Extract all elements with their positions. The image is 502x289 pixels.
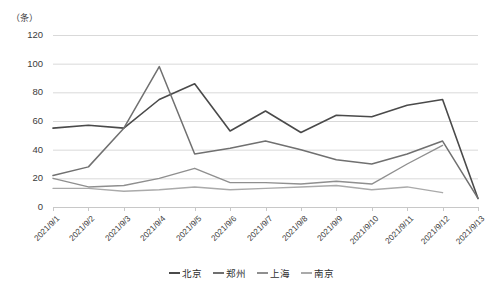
- legend-label: 南京: [314, 266, 334, 280]
- y-tick-label: 80: [13, 86, 43, 97]
- y-tick-label: 120: [13, 29, 43, 40]
- legend-line-icon: [257, 272, 268, 274]
- legend-item[interactable]: 北京: [169, 266, 202, 280]
- legend-line-icon: [213, 272, 224, 274]
- legend-line-icon: [169, 272, 180, 274]
- gridlines-group: [53, 36, 478, 208]
- legend-item[interactable]: 郑州: [213, 266, 246, 280]
- legend-item[interactable]: 南京: [301, 266, 334, 280]
- y-tick-label: 100: [13, 58, 43, 69]
- chart-plot-area: [0, 0, 502, 289]
- legend-label: 郑州: [226, 266, 246, 280]
- legend-label: 上海: [270, 266, 290, 280]
- line-chart: （条） 020406080100120 2021/9/12021/9/22021…: [0, 0, 502, 289]
- series-line: [53, 145, 443, 187]
- y-tick-label: 60: [13, 115, 43, 126]
- y-tick-label: 20: [13, 172, 43, 183]
- legend-label: 北京: [182, 266, 202, 280]
- y-tick-label: 0: [13, 201, 43, 212]
- y-tick-label: 40: [13, 144, 43, 155]
- chart-legend: 北京郑州上海南京: [0, 266, 502, 280]
- legend-line-icon: [301, 272, 312, 274]
- legend-item[interactable]: 上海: [257, 266, 290, 280]
